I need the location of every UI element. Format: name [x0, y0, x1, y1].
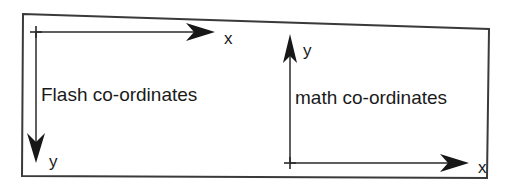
math-y-axis-label: y — [303, 41, 312, 60]
math-x-axis — [290, 154, 469, 172]
diagram-canvas: x y Flash co-ordinates — [0, 0, 511, 194]
math-system-caption: math co-ordinates — [295, 87, 447, 108]
flash-coordinate-system: x y Flash co-ordinates — [27, 23, 233, 171]
math-coordinate-system: x y math co-ordinates — [283, 34, 487, 177]
flash-system-caption: Flash co-ordinates — [41, 84, 197, 105]
math-x-axis-label: x — [478, 158, 487, 177]
flash-x-axis-label: x — [224, 29, 233, 48]
flash-x-axis — [36, 23, 215, 41]
coordinate-systems-diagram: x y Flash co-ordinates — [0, 0, 511, 194]
flash-y-axis-label: y — [49, 152, 58, 171]
